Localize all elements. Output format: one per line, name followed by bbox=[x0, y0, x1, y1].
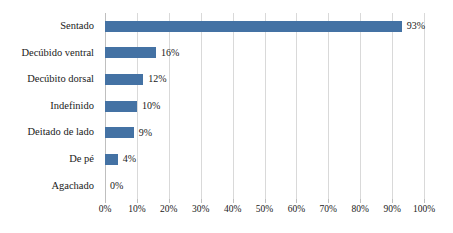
x-axis-tick bbox=[201, 199, 202, 203]
x-axis-tick-label: 10% bbox=[128, 205, 145, 215]
bar-value-label: 9% bbox=[139, 128, 152, 138]
x-axis-tick bbox=[328, 199, 329, 203]
x-axis-tick bbox=[233, 199, 234, 203]
bar-chart: Sentado Decúbido ventral Decúbito dorsal… bbox=[0, 0, 453, 233]
bar-series: 93% 16% 12% 10% 9% 4% bbox=[105, 13, 424, 199]
bar-row: 9% bbox=[105, 119, 424, 146]
bar-row: 16% bbox=[105, 40, 424, 67]
category-label: Agachado bbox=[0, 172, 100, 199]
x-axis-tick bbox=[296, 199, 297, 203]
bar-value-label: 12% bbox=[148, 74, 166, 84]
gridline bbox=[424, 13, 425, 199]
x-axis-tick-label: 0% bbox=[99, 205, 112, 215]
bar-value-label: 93% bbox=[407, 21, 425, 31]
x-axis-tick-label: 70% bbox=[320, 205, 337, 215]
x-axis-tick-label: 90% bbox=[383, 205, 400, 215]
category-label: Decúbito dorsal bbox=[0, 66, 100, 93]
category-label: De pé bbox=[0, 146, 100, 173]
bar bbox=[105, 154, 118, 165]
x-axis-tick-label: 60% bbox=[288, 205, 305, 215]
category-label: Deitado de lado bbox=[0, 119, 100, 146]
bar-row: 12% bbox=[105, 66, 424, 93]
x-axis-tick-labels: 0%10%20%30%40%50%60%70%80%90%100% bbox=[105, 205, 424, 221]
x-axis-tick-label: 20% bbox=[160, 205, 177, 215]
x-axis-tick-label: 30% bbox=[192, 205, 209, 215]
bar bbox=[105, 74, 143, 85]
bar-value-label: 4% bbox=[123, 154, 136, 164]
bar-value-label: 10% bbox=[142, 101, 160, 111]
plot-area: 93% 16% 12% 10% 9% 4% bbox=[105, 13, 424, 199]
x-axis-tick bbox=[424, 199, 425, 203]
x-axis-tick bbox=[392, 199, 393, 203]
bar-row: 0% bbox=[105, 172, 424, 199]
x-axis-tick-label: 40% bbox=[224, 205, 241, 215]
category-label: Sentado bbox=[0, 13, 100, 40]
x-axis-tick-label: 80% bbox=[351, 205, 368, 215]
bar bbox=[105, 127, 134, 138]
category-label: Indefinido bbox=[0, 93, 100, 120]
x-axis-tick bbox=[169, 199, 170, 203]
bar bbox=[105, 101, 137, 112]
bar-row: 10% bbox=[105, 93, 424, 120]
bar-row: 4% bbox=[105, 146, 424, 173]
bar-value-label: 16% bbox=[161, 48, 179, 58]
bar-value-label: 0% bbox=[110, 181, 123, 191]
x-axis-tick bbox=[105, 199, 106, 203]
bar-row: 93% bbox=[105, 13, 424, 40]
x-axis-tick bbox=[265, 199, 266, 203]
x-axis-tick bbox=[137, 199, 138, 203]
x-axis-tick-label: 50% bbox=[256, 205, 273, 215]
bar bbox=[105, 21, 402, 32]
category-axis: Sentado Decúbido ventral Decúbito dorsal… bbox=[0, 13, 100, 199]
x-axis-tick bbox=[360, 199, 361, 203]
bar bbox=[105, 47, 156, 58]
x-axis-tick-label: 100% bbox=[413, 205, 435, 215]
category-label: Decúbido ventral bbox=[0, 40, 100, 67]
